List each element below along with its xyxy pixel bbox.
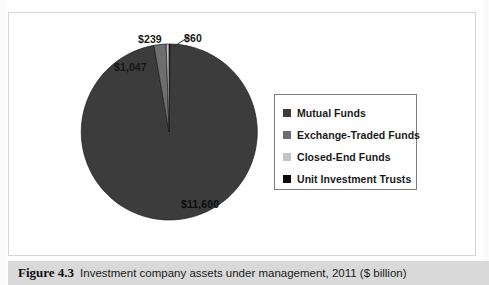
page-edge-left [0, 0, 6, 285]
legend-swatch-mutual-funds [283, 109, 291, 117]
legend-swatch-exchange-traded-funds [283, 131, 291, 139]
legend-item-closed-end-funds[interactable]: Closed-End Funds [283, 146, 416, 167]
figure-page: $60 $239 $1,047 $11,600 Mutual Funds Exc… [0, 0, 489, 285]
legend-item-mutual-funds[interactable]: Mutual Funds [283, 102, 416, 123]
chart-legend: Mutual Funds Exchange-Traded Funds Close… [274, 94, 417, 190]
legend-swatch-unit-investment-trusts [283, 175, 291, 183]
pie-chart-area: $60 $239 $1,047 $11,600 Mutual Funds Exc… [9, 13, 477, 257]
data-label-mutual-funds: $11,600 [181, 198, 219, 210]
legend-label-mutual-funds: Mutual Funds [297, 107, 366, 119]
data-label-exchange-traded-funds: $1,047 [114, 61, 147, 73]
data-label-unit-investment-trusts: $60 [184, 32, 202, 44]
data-label-closed-end-funds: $239 [138, 33, 162, 45]
legend-item-exchange-traded-funds[interactable]: Exchange-Traded Funds [283, 124, 416, 145]
legend-label-closed-end-funds: Closed-End Funds [297, 151, 391, 163]
figure-number: Figure 4.3 [18, 265, 74, 281]
legend-swatch-closed-end-funds [283, 153, 291, 161]
figure-caption-text: Investment company assets under manageme… [80, 267, 406, 279]
figure-frame: $60 $239 $1,047 $11,600 Mutual Funds Exc… [8, 12, 476, 256]
legend-item-unit-investment-trusts[interactable]: Unit Investment Trusts [283, 168, 416, 189]
legend-label-unit-investment-trusts: Unit Investment Trusts [297, 173, 411, 185]
pie-chart [69, 37, 269, 227]
page-edge-right [483, 0, 489, 285]
figure-caption: Figure 4.3 Investment company assets und… [8, 261, 489, 285]
legend-label-exchange-traded-funds: Exchange-Traded Funds [297, 129, 420, 141]
